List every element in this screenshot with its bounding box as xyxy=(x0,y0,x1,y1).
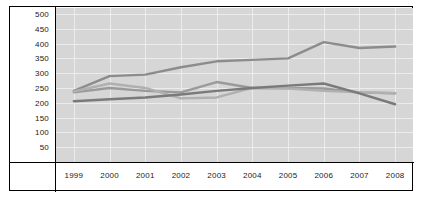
y-tick-label: 150 xyxy=(35,113,49,122)
y-tick-label: 250 xyxy=(35,83,49,92)
x-tick-label: 2001 xyxy=(136,171,155,180)
x-axis-tick-labels: 1999200020012002200320042005200620072008 xyxy=(56,163,413,191)
series-lines xyxy=(56,8,413,162)
y-tick-label: 50 xyxy=(40,143,49,152)
chart-frame: 50100150200250300350400450500 1999200020… xyxy=(9,6,413,191)
line-chart: 50100150200250300350400450500 1999200020… xyxy=(0,0,422,216)
x-tick-label: 2008 xyxy=(386,171,405,180)
y-tick-label: 350 xyxy=(35,54,49,63)
x-tick-label: 2002 xyxy=(172,171,191,180)
plot-area xyxy=(56,8,413,162)
x-tick-label: 2003 xyxy=(207,171,226,180)
y-tick-label: 450 xyxy=(35,24,49,33)
y-tick-label: 500 xyxy=(35,9,49,18)
y-tick-label: 200 xyxy=(35,98,49,107)
x-tick-label: 1999 xyxy=(65,171,84,180)
x-tick-label: 2005 xyxy=(279,171,298,180)
y-tick-label: 400 xyxy=(35,39,49,48)
y-tick-label: 100 xyxy=(35,128,49,137)
x-tick-label: 2006 xyxy=(314,171,333,180)
x-tick-label: 2000 xyxy=(100,171,119,180)
y-tick-label: 300 xyxy=(35,69,49,78)
series-line-series-1 xyxy=(74,42,395,91)
x-tick-label: 2007 xyxy=(350,171,369,180)
y-axis-tick-labels: 50100150200250300350400450500 xyxy=(10,8,55,162)
x-tick-label: 2004 xyxy=(243,171,262,180)
